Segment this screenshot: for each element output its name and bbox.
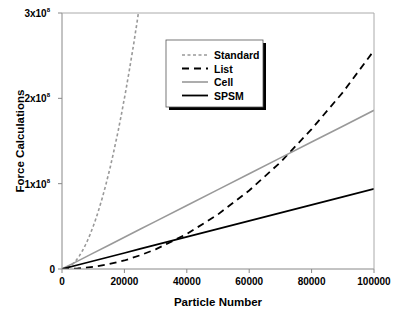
x-ticks: 020000400006000080000100000 [59, 269, 391, 287]
x-tick-label: 40000 [173, 276, 201, 287]
x-tick-label: 20000 [110, 276, 138, 287]
x-axis-title: Particle Number [174, 296, 263, 308]
y-axis-title: Force Calculations [14, 90, 26, 193]
series-line-cell [62, 110, 374, 269]
legend-label-standard: Standard [214, 49, 260, 61]
x-tick-label: 100000 [357, 276, 391, 287]
legend-label-cell: Cell [214, 76, 233, 88]
legend-label-list: List [214, 63, 233, 75]
y-tick-label: 0 [49, 264, 55, 275]
y-tick-label: 3x108 [24, 7, 50, 19]
series-line-standard [62, 0, 146, 269]
series-line-spsm [62, 189, 374, 269]
y-tick-label: 1x108 [24, 178, 50, 190]
chart: 01x1082x1083x108 02000040000600008000010… [0, 0, 406, 321]
legend: StandardListCellSPSM [166, 40, 266, 110]
x-tick-label: 60000 [235, 276, 263, 287]
x-tick-label: 0 [59, 276, 65, 287]
y-tick-label: 2x108 [24, 92, 50, 104]
x-tick-label: 80000 [298, 276, 326, 287]
legend-label-spsm: SPSM [214, 90, 244, 102]
y-ticks: 01x1082x1083x108 [24, 7, 62, 275]
